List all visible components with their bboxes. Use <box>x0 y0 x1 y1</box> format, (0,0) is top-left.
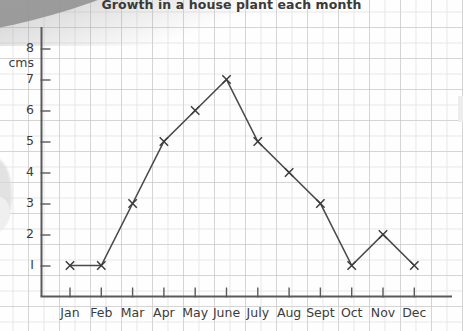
data-point-july <box>254 137 262 145</box>
data-point-aug <box>285 168 293 176</box>
data-point-markers <box>66 75 419 269</box>
data-point-dec <box>410 261 418 269</box>
chart-screenshot: Growth in a house plant each month 8 cms… <box>0 0 463 331</box>
data-point-june <box>222 75 230 83</box>
axis-lines <box>41 27 453 297</box>
plot-area <box>0 0 463 331</box>
data-point-apr <box>160 137 168 145</box>
data-point-may <box>191 106 199 114</box>
data-point-sept <box>316 199 324 207</box>
data-line <box>70 80 414 266</box>
data-point-mar <box>128 199 136 207</box>
data-point-nov <box>379 230 387 238</box>
data-point-oct <box>348 261 356 269</box>
